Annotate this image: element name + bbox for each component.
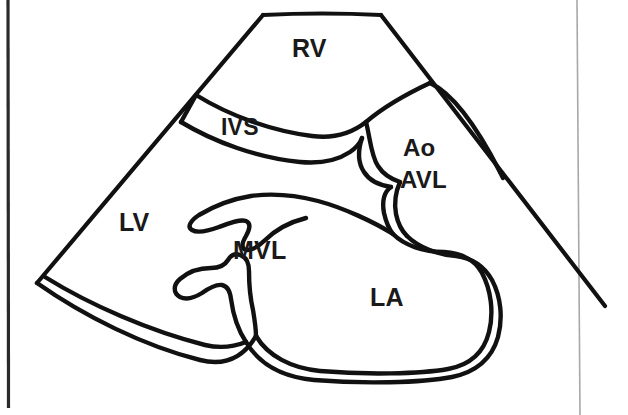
aorta-sinus-posterior xyxy=(500,172,503,178)
label-left-ventricle: LV xyxy=(119,210,150,235)
right-page-rule-line xyxy=(577,0,580,415)
left-page-border-line xyxy=(8,0,9,408)
mitral-posterior-leaflet xyxy=(175,254,256,342)
page-artifacts xyxy=(8,0,580,415)
label-aorta: Ao xyxy=(403,136,435,160)
left-ventricle-posterior-wall xyxy=(37,277,256,362)
label-left-atrium: LA xyxy=(370,285,404,310)
figure-canvas: RV IVS Ao AVL LV MVL LA xyxy=(0,0,628,415)
mitral-anterior-leaflet xyxy=(190,195,393,250)
lv-posterior-epicardium xyxy=(37,283,256,362)
sector-left-edge xyxy=(37,15,263,283)
aorta-anterior-wall-outer xyxy=(366,122,400,182)
label-right-ventricle: RV xyxy=(292,36,327,61)
label-aortic-valve-leaflet: AVL xyxy=(400,168,447,192)
mvl-anterior-leaflet-outline xyxy=(190,195,393,250)
sector-top-edge xyxy=(263,14,381,16)
heart-schematic-drawing xyxy=(0,0,628,415)
interventricular-septum xyxy=(181,83,430,163)
label-interventricular-septum: IVS xyxy=(221,116,259,139)
mvl-posterior-leaflet-outline xyxy=(175,254,256,342)
label-mitral-valve-leaflet: MVL xyxy=(233,238,286,263)
